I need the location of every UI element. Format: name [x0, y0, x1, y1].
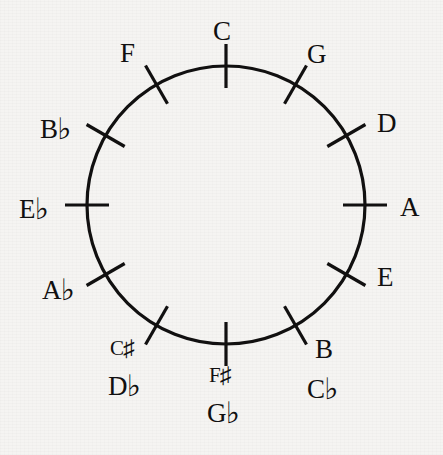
note-label-group-c-sharp: C♯D♭ [108, 336, 142, 400]
note-label-f-sharp-alternate: G♭ [207, 397, 241, 427]
note-letter: E [19, 194, 36, 224]
note-letter: A [400, 192, 420, 222]
note-letter: D [108, 371, 128, 401]
note-label-d: D [377, 110, 397, 137]
note-letter: C [307, 374, 325, 404]
flat-symbol: ♭ [61, 273, 75, 306]
note-letter: D [377, 108, 397, 138]
note-letter: E [377, 262, 394, 292]
note-label-a: A [400, 194, 420, 221]
flat-symbol: ♭ [127, 369, 141, 402]
note-label-group-f-sharp: F♯G♭ [207, 363, 241, 427]
note-label-b-flat: B♭ [40, 113, 72, 143]
note-label-c-sharp-alternate: D♭ [108, 370, 142, 400]
note-letter: C [213, 16, 231, 46]
tick-mark-group [65, 44, 387, 366]
note-label-e: E [377, 264, 394, 291]
note-label-c: C [213, 18, 231, 45]
circle-outline [87, 66, 365, 344]
note-label-b-primary: B [315, 336, 333, 363]
note-label-a-flat: A♭ [42, 274, 76, 304]
note-label-f-sharp-primary: F♯ [209, 363, 232, 386]
note-letter: A [42, 275, 62, 305]
note-label-c-sharp-primary: C♯ [110, 336, 136, 359]
flat-symbol: ♭ [57, 112, 71, 145]
note-label-f: F [120, 40, 135, 67]
sharp-symbol: ♯ [220, 363, 232, 388]
note-letter: C [110, 336, 124, 360]
note-letter: B [315, 334, 333, 364]
note-letter: F [209, 363, 221, 387]
note-label-group-b: BC♭ [307, 336, 339, 403]
note-letter: F [120, 38, 135, 68]
circle-of-fifths-diagram: CGDAEBC♭F♯G♭C♯D♭A♭E♭B♭F [0, 0, 443, 455]
note-letter: G [307, 39, 327, 69]
note-label-b-alternate: C♭ [307, 373, 339, 403]
flat-symbol: ♭ [226, 396, 240, 429]
note-label-g: G [307, 41, 327, 68]
flat-symbol: ♭ [324, 372, 338, 405]
note-label-e-flat: E♭ [19, 193, 50, 223]
sharp-symbol: ♯ [123, 336, 135, 361]
flat-symbol: ♭ [35, 192, 49, 225]
note-letter: B [40, 114, 58, 144]
note-letter: G [207, 398, 227, 428]
